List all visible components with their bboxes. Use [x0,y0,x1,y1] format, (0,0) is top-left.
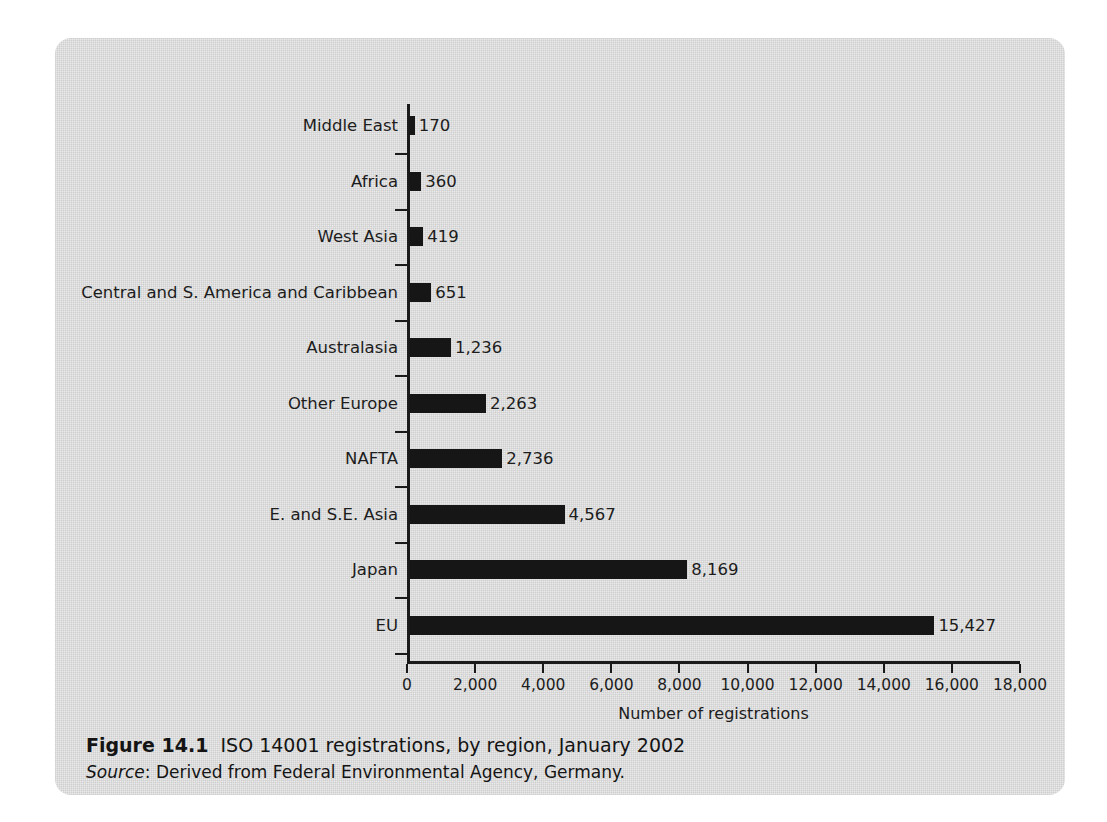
figure-source: Source: Derived from Federal Environment… [86,759,1026,786]
bar-row: Africa360 [55,169,1065,195]
bar [409,394,486,413]
y-axis-tick [395,431,408,433]
category-label: Africa [351,171,398,192]
x-axis-tick [474,664,476,673]
bar [409,116,415,135]
bar-row: EU15,427 [55,613,1065,639]
chart-plot-area: Middle East170Africa360West Asia419Centr… [55,38,1065,678]
figure-card: Middle East170Africa360West Asia419Centr… [55,38,1065,795]
y-axis-tick [395,320,408,322]
bar [409,505,565,524]
y-axis-tick [395,653,408,655]
y-axis-tick [395,375,408,377]
bar [409,616,934,635]
x-axis-tick [747,664,749,673]
category-label: EU [375,615,398,636]
bar-row: Other Europe2,263 [55,391,1065,417]
x-axis-tick [951,664,953,673]
category-label: Australasia [306,337,398,358]
bar-row: Middle East170 [55,113,1065,139]
category-label: Central and S. America and Caribbean [81,282,398,303]
y-axis-tick [395,486,408,488]
category-label: E. and S.E. Asia [270,504,398,525]
bar-value-label: 360 [425,171,457,192]
x-axis-tick-label: 6,000 [589,676,633,694]
x-axis-tick-label: 2,000 [453,676,497,694]
x-axis-tick [610,664,612,673]
bar-value-label: 4,567 [569,504,616,525]
figure-caption: Figure 14.1 ISO 14001 registrations, by … [86,731,1026,759]
x-axis-tick-label: 10,000 [720,676,774,694]
y-axis-tick [395,153,408,155]
x-axis-tick [815,664,817,673]
bar-value-label: 170 [419,115,451,136]
y-axis-tick [395,542,408,544]
x-axis-tick-label: 18,000 [993,676,1047,694]
x-axis-tick-label: 16,000 [925,676,979,694]
x-axis-tick-label: 14,000 [857,676,911,694]
x-axis-tick [1019,664,1021,673]
bar-value-label: 15,427 [938,615,996,636]
bar-row: West Asia419 [55,224,1065,250]
category-label: NAFTA [345,448,398,469]
bar-value-label: 419 [427,226,459,247]
x-axis-tick [542,664,544,673]
bar [409,338,451,357]
x-axis-line [407,661,1020,664]
category-label: West Asia [318,226,398,247]
x-axis-title: Number of registrations [407,704,1020,723]
x-axis-tick-label: 12,000 [789,676,843,694]
category-label: Other Europe [288,393,398,414]
y-axis-tick [395,597,408,599]
x-axis-tick-label: 0 [402,676,412,694]
x-axis-tick-label: 4,000 [521,676,565,694]
bar [409,560,687,579]
source-label: Source [86,762,145,782]
x-axis-tick [406,664,408,673]
bar [409,172,421,191]
bar-row: Australasia1,236 [55,335,1065,361]
bar-row: NAFTA2,736 [55,446,1065,472]
bar-value-label: 2,263 [490,393,537,414]
category-label: Japan [352,559,398,580]
source-text: : Derived from Federal Environmental Age… [145,762,625,782]
category-label: Middle East [303,115,398,136]
x-axis-tick [883,664,885,673]
bar-value-label: 651 [435,282,467,303]
bar-row: Japan8,169 [55,557,1065,583]
y-axis-tick [395,209,408,211]
y-axis-tick [395,264,408,266]
x-axis-tick [678,664,680,673]
figure-title: ISO 14001 registrations, by region, Janu… [220,734,685,756]
bar-value-label: 1,236 [455,337,502,358]
bar-row: E. and S.E. Asia4,567 [55,502,1065,528]
bar-value-label: 8,169 [691,559,738,580]
figure-number: Figure 14.1 [86,734,208,756]
bar-value-label: 2,736 [506,448,553,469]
caption-block: Figure 14.1 ISO 14001 registrations, by … [86,731,1026,786]
bar [409,283,431,302]
bar [409,227,423,246]
bar-row: Central and S. America and Caribbean651 [55,280,1065,306]
x-axis-tick-label: 8,000 [657,676,701,694]
bar [409,449,502,468]
